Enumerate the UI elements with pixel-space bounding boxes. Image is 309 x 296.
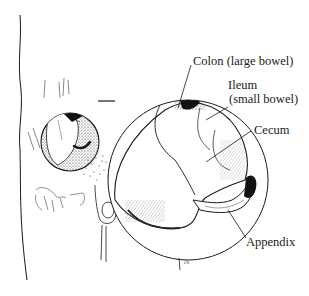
groin-detail [35, 188, 84, 212]
small-inset-circle [41, 100, 115, 171]
torso-outline [19, 15, 27, 280]
ileum-sublabel: (small bowel) [229, 93, 298, 106]
colon-label: Colon (large bowel) [193, 55, 293, 68]
appendix-label: Appendix [246, 236, 295, 249]
artist-signature: cs [184, 259, 189, 265]
ileum-label: Ileum [228, 79, 257, 92]
magnified-circle [108, 92, 268, 270]
appendix-anatomy-illustration [0, 0, 309, 296]
cecum-label: Cecum [254, 124, 289, 137]
